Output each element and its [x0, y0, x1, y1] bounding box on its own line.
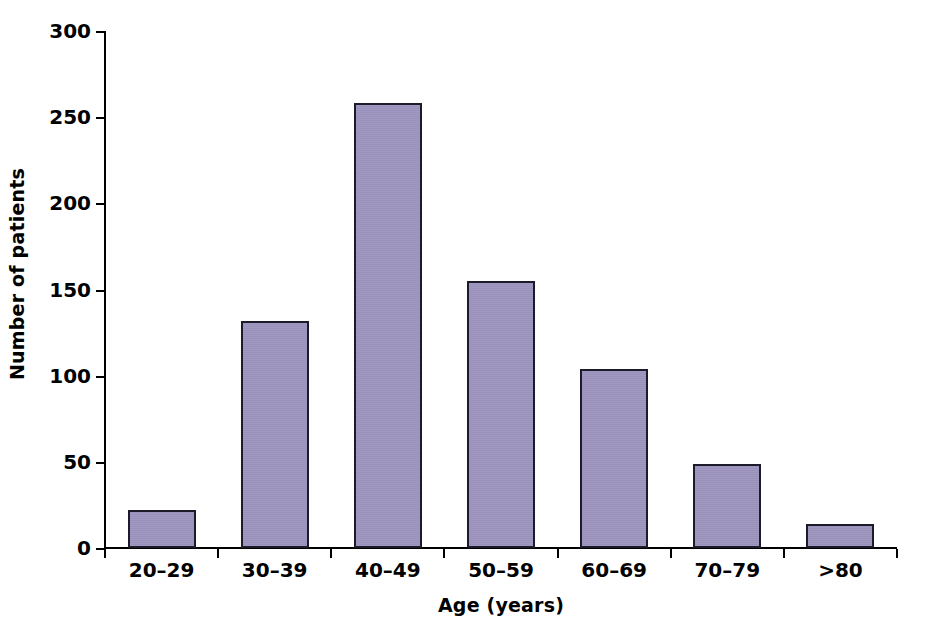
x-tick-mark [557, 549, 559, 558]
y-tick-label: 300 [49, 19, 91, 43]
y-tick-label: 0 [77, 536, 91, 560]
y-tick-label: 150 [49, 278, 91, 302]
y-tick-mark [96, 117, 105, 119]
y-tick-label: 50 [63, 450, 91, 474]
y-tick-mark [96, 31, 105, 33]
bar [693, 464, 761, 548]
x-tick-label: 20–29 [129, 558, 195, 582]
x-tick-label: 70–79 [694, 558, 760, 582]
x-tick-mark [783, 549, 785, 558]
bar [241, 321, 309, 548]
x-tick-mark [217, 549, 219, 558]
x-tick-label: 60–69 [581, 558, 647, 582]
bar [467, 281, 535, 548]
x-tick-mark [670, 549, 672, 558]
x-tick-label: 30–39 [242, 558, 308, 582]
x-axis-title: Age (years) [105, 594, 897, 616]
x-tick-mark [104, 549, 106, 558]
bar-chart: Number of patients Age (years) 050100150… [0, 0, 926, 638]
x-tick-mark [896, 549, 898, 558]
bar [354, 103, 422, 548]
x-tick-label: 50–59 [468, 558, 534, 582]
x-tick-label: 40–49 [355, 558, 421, 582]
y-tick-label: 200 [49, 191, 91, 215]
x-tick-mark [330, 549, 332, 558]
y-tick-label: 250 [49, 105, 91, 129]
y-axis-title: Number of patients [0, 0, 34, 548]
bar [128, 510, 196, 548]
y-tick-mark [96, 376, 105, 378]
y-tick-mark [96, 203, 105, 205]
y-tick-mark [96, 290, 105, 292]
x-tick-label: >80 [818, 558, 863, 582]
bar [580, 369, 648, 548]
bar [806, 524, 874, 548]
plot-area: 050100150200250300 [105, 31, 897, 548]
y-tick-mark [96, 462, 105, 464]
x-tick-mark [443, 549, 445, 558]
y-tick-label: 100 [49, 364, 91, 388]
